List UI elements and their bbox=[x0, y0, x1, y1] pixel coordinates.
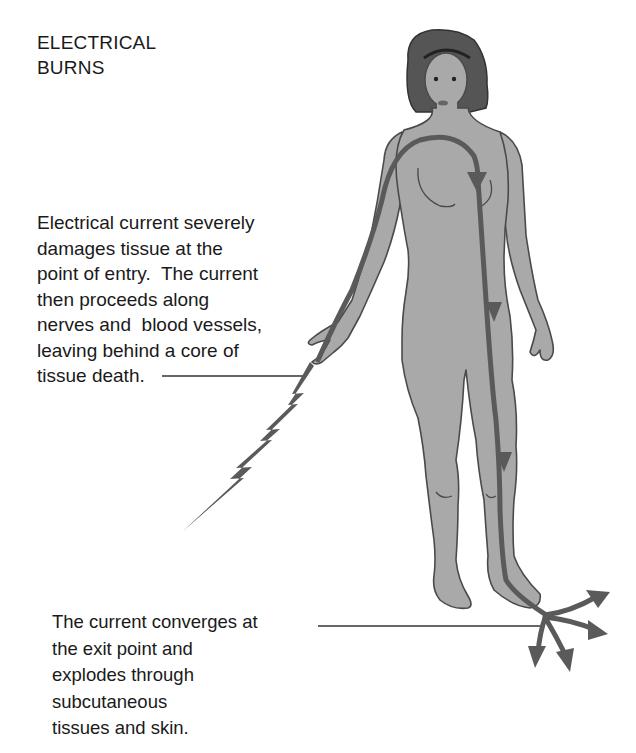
body-illustration bbox=[0, 0, 636, 753]
exit-burst-arrows-icon bbox=[538, 597, 596, 656]
lightning-bolt-icon bbox=[182, 362, 314, 532]
body bbox=[308, 108, 553, 608]
